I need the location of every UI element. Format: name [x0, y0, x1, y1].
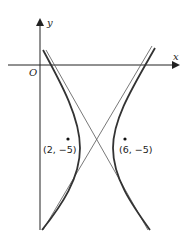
point-label-2-neg5: (2, −5) [43, 144, 77, 155]
right-hyperbola-branch [113, 48, 155, 230]
origin-label: O [29, 67, 37, 78]
point-label-6-neg5: (6, −5) [119, 144, 153, 155]
point-2-neg5 [66, 137, 69, 140]
y-axis-label: y [46, 17, 53, 28]
hyperbola-diagram: y x O (2, −5) (6, −5) [0, 0, 188, 240]
point-6-neg5 [123, 137, 126, 140]
x-axis-label: x [173, 51, 179, 62]
